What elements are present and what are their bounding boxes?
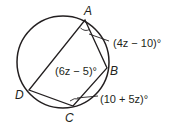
angle-label-c: (10 + 5z)°	[100, 93, 148, 105]
leader-line-c	[77, 96, 98, 98]
vertex-label-c: C	[65, 111, 74, 125]
angle-label-a: (4z − 10)°	[113, 37, 161, 49]
vertex-label-a: A	[83, 4, 92, 18]
vertex-label-d: D	[15, 88, 24, 102]
angle-label-b: (6z − 5)°	[55, 65, 97, 77]
inscribed-quadrilateral-diagram: A B C D (4z − 10)° (6z − 5)° (10 + 5z)°	[0, 0, 172, 127]
vertex-label-b: B	[110, 64, 118, 78]
circle	[17, 16, 109, 108]
quadrilateral-abcd	[29, 20, 107, 106]
leader-line-a	[89, 34, 109, 41]
